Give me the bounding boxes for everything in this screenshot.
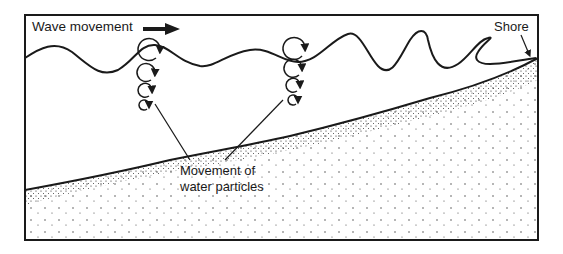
orbit-set-right [283, 37, 305, 105]
bold-right-arrow-icon [143, 23, 180, 35]
wave-movement-label: Wave movement [32, 20, 133, 34]
wave-surface [25, 31, 536, 73]
shore-pointer [521, 35, 529, 54]
wave-diagram [0, 0, 563, 254]
shore-label: Shore [494, 20, 529, 34]
particles-label-line2: water particles [180, 180, 264, 194]
particles-label-line1: Movement of [180, 164, 255, 178]
leader-line-left [155, 104, 190, 160]
